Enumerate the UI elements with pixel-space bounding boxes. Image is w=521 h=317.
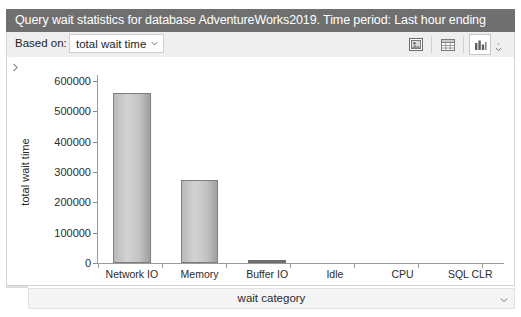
bar-slot [98,57,166,263]
y-axis-title: total wait time [17,57,33,286]
query-wait-statistics-window: Query wait statistics for database Adven… [0,0,521,317]
y-axis-tick-mark [93,111,97,112]
y-axis-title-text: total wait time [19,138,31,205]
based-on-dropdown[interactable]: total wait time [69,34,164,53]
bar-series [98,57,504,263]
y-axis-tick-mark [93,81,97,82]
panel-corner-divider [6,286,28,288]
x-axis-tick-label: Buffer IO [233,268,301,280]
toolbar-separator-1 [431,36,432,53]
x-axis-tick-label: SQL CLR [436,268,504,280]
y-axis-tick-mark [93,233,97,234]
view-mode-buttons [400,33,503,56]
x-axis-title-bar[interactable]: wait category [28,288,515,309]
x-axis-title-text: wait category [29,292,514,304]
window-title: Query wait statistics for database Adven… [6,9,515,32]
plot-area: 0100000200000300000400000500000600000 Ne… [33,57,508,285]
y-axis-tick-label: 500000 [33,105,91,117]
overflow-chevron-icon [495,42,502,53]
bar-chart-icon [474,39,487,51]
toolbar-separator-2 [463,36,464,53]
x-axis-labels: Network IOMemoryBuffer IOIdleCPUSQL CLR [98,268,504,280]
bar-network-io[interactable] [113,93,151,263]
y-axis-tick-mark [93,142,97,143]
based-on-label: Based on: [15,37,67,49]
x-axis-line [97,263,504,264]
bar-memory[interactable] [181,180,219,263]
y-axis-tick-mark [93,263,97,264]
y-axis-tick-mark [93,202,97,203]
x-axis-tick-label: Idle [301,268,369,280]
x-axis-tick-label: Network IO [98,268,166,280]
chart-view-button[interactable] [469,34,491,55]
export-image-button[interactable] [405,34,427,55]
bar-slot [369,57,437,263]
bar-slot [436,57,504,263]
table-icon [441,39,455,51]
y-axis-tick-label: 0 [33,257,91,269]
y-axis-tick-label: 300000 [33,166,91,178]
picture-icon [409,38,423,51]
bar-slot [301,57,369,263]
y-axis-tick-label: 200000 [33,196,91,208]
y-axis-tick-mark [93,172,97,173]
x-axis-tick-label: Memory [166,268,234,280]
bar-slot [166,57,234,263]
chevron-down-icon[interactable] [500,296,508,304]
y-axis-tick-label: 600000 [33,75,91,87]
chart-panel: total wait time 010000020000030000040000… [6,57,515,286]
y-axis-tick-label: 400000 [33,136,91,148]
grid-view-button[interactable] [437,34,459,55]
chart-toolbar: Based on: total wait time [6,32,515,57]
x-axis-tick-label: CPU [369,268,437,280]
based-on-value: total wait time [76,38,146,50]
toolbar-overflow-button[interactable] [494,34,503,55]
bar-buffer-io[interactable] [248,260,286,263]
y-axis-tick-label: 100000 [33,227,91,239]
chevron-down-icon [151,40,158,47]
bar-slot [233,57,301,263]
